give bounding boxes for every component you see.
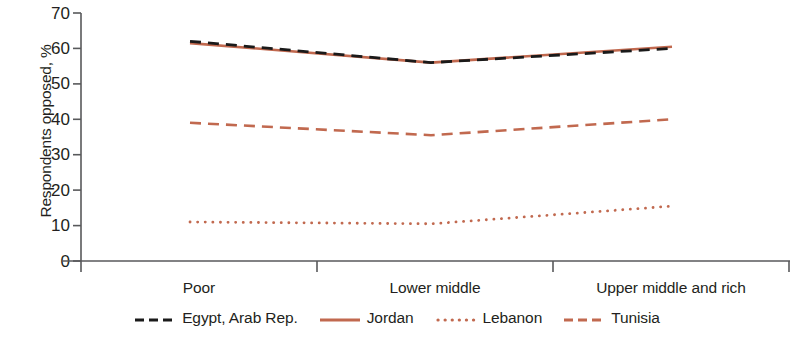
series-line-tunisia — [190, 119, 672, 135]
chart-legend: Egypt, Arab Rep. Jordan Lebanon — [0, 309, 795, 327]
series-line-jordan — [190, 43, 672, 63]
legend-swatch-dotted-orange-icon — [436, 312, 476, 324]
legend-item-egypt[interactable]: Egypt, Arab Rep. — [135, 309, 298, 327]
x-category-label-upper-middle-and-rich: Upper middle and rich — [553, 279, 789, 297]
legend-label-tunisia: Tunisia — [611, 309, 660, 327]
legend-label-lebanon: Lebanon — [483, 309, 543, 327]
x-category-label-lower-middle: Lower middle — [317, 279, 553, 297]
x-category-label-poor: Poor — [81, 279, 317, 297]
legend-item-jordan[interactable]: Jordan — [320, 309, 414, 327]
legend-item-tunisia[interactable]: Tunisia — [564, 309, 660, 327]
legend-label-jordan: Jordan — [367, 309, 414, 327]
legend-item-lebanon[interactable]: Lebanon — [436, 309, 543, 327]
x-axis-ticks — [81, 261, 789, 272]
line-chart: Respondents opposed, % 70 60 50 40 30 20… — [0, 0, 795, 341]
legend-swatch-dashed-black-icon — [135, 312, 175, 324]
y-axis-ticks — [73, 13, 81, 261]
series-line-lebanon — [190, 206, 672, 224]
legend-label-egypt: Egypt, Arab Rep. — [182, 309, 298, 327]
legend-swatch-dashed-orange-icon — [564, 312, 604, 324]
legend-swatch-solid-orange-icon — [320, 312, 360, 324]
